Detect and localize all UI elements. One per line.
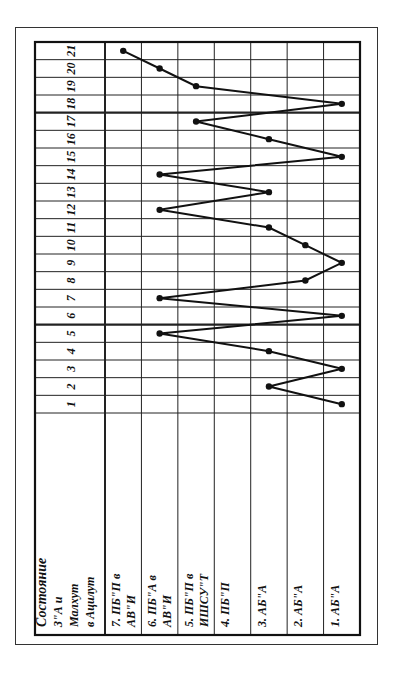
column-number: 5	[64, 331, 78, 337]
state-chart: 123456789101112131415161718192021Состоян…	[0, 0, 395, 674]
column-number: 21	[64, 45, 78, 58]
data-point	[339, 313, 345, 319]
column-number: 2	[64, 384, 78, 391]
column-number: 16	[64, 133, 78, 145]
data-point	[193, 118, 199, 124]
state-label: АВ"И	[124, 594, 138, 628]
data-point	[266, 136, 272, 142]
column-number: 7	[64, 294, 78, 301]
header-label: в Ацилут	[83, 577, 97, 627]
table-border	[35, 42, 360, 635]
data-point	[266, 348, 272, 354]
state-label: 4. ПБ"П	[218, 581, 232, 628]
column-number: 18	[64, 98, 78, 110]
data-point	[339, 260, 345, 266]
data-point	[266, 224, 272, 230]
data-point	[339, 366, 345, 372]
column-number: 3	[64, 366, 78, 373]
state-label: 7. ПБ"П в	[109, 573, 123, 627]
state-label: ИШСУ"Т	[197, 573, 211, 628]
state-line	[123, 51, 342, 404]
data-point	[120, 48, 126, 54]
column-number: 4	[64, 348, 78, 355]
column-number: 17	[64, 115, 78, 128]
data-point	[156, 207, 162, 213]
data-point	[156, 65, 162, 71]
data-point	[302, 242, 308, 248]
state-label: 5. ПБ"П в	[182, 573, 196, 627]
header-label: Состояние	[34, 558, 49, 627]
column-number: 13	[64, 186, 78, 198]
column-number: 10	[64, 239, 78, 251]
state-label: 6. ПБ"А в	[145, 574, 159, 627]
state-label: АВ"И	[160, 594, 174, 628]
column-number: 14	[64, 169, 78, 181]
column-number: 9	[64, 260, 78, 266]
column-number: 12	[64, 204, 78, 216]
data-point	[156, 171, 162, 177]
column-number: 19	[64, 80, 78, 92]
data-point	[193, 83, 199, 89]
state-label: 2. АБ"А	[291, 585, 305, 628]
data-point	[339, 401, 345, 407]
data-point	[266, 189, 272, 195]
data-point	[302, 277, 308, 283]
column-number: 20	[64, 63, 78, 76]
data-point	[156, 330, 162, 336]
state-label: 1. АБ"А	[328, 585, 342, 627]
column-number: 6	[64, 313, 78, 319]
header-label: Малхут	[67, 584, 81, 628]
data-point	[156, 295, 162, 301]
column-number: 11	[64, 222, 78, 233]
column-number: 8	[64, 278, 78, 284]
state-label: 3. АБ"А	[255, 585, 269, 628]
header-label: З"А и	[51, 596, 65, 628]
data-point	[339, 101, 345, 107]
data-point	[339, 154, 345, 160]
column-number: 1	[64, 401, 78, 407]
column-number: 15	[64, 151, 78, 163]
data-point	[266, 383, 272, 389]
